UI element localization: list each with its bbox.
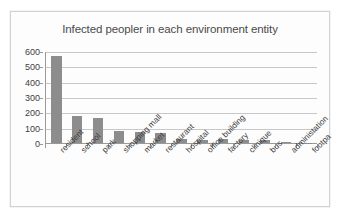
y-axis-tick <box>40 144 43 145</box>
y-axis-tick-label: 500 <box>25 63 40 72</box>
bar <box>51 56 61 143</box>
chart-frame: Infected peopler in each environment ent… <box>10 11 330 207</box>
y-axis-tick <box>40 52 43 53</box>
chart-title: Infected peopler in each environment ent… <box>11 23 329 35</box>
bar-slot <box>150 52 171 143</box>
y-axis-tick <box>40 98 43 99</box>
bar-slot <box>46 52 67 143</box>
y-axis-tick <box>40 83 43 84</box>
y-axis-tick-label: 600 <box>25 48 40 57</box>
y-axis-tick <box>40 67 43 68</box>
y-axis-tick-label: 400 <box>25 78 40 87</box>
y-axis-tick <box>40 129 43 130</box>
x-axis-tick <box>45 144 46 148</box>
y-axis-tick-label: 200 <box>25 109 40 118</box>
bar-slot <box>275 52 296 143</box>
y-axis-tick <box>40 113 43 114</box>
y-axis-labels: 0100200300400500600 <box>11 52 43 144</box>
y-axis-tick-label: 300 <box>25 94 40 103</box>
x-axis-labels: residentschoolparkshopping mallmarketres… <box>45 149 317 219</box>
bar-slot <box>109 52 130 143</box>
y-axis-tick-label: 100 <box>25 124 40 133</box>
bar-slot <box>88 52 109 143</box>
